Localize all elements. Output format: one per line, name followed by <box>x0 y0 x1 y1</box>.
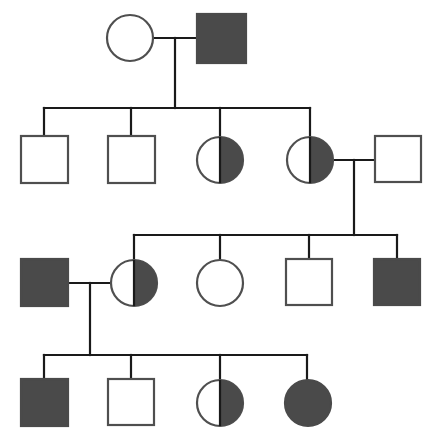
square-symbol-III-4[interactable] <box>286 259 332 305</box>
individual-II-1[interactable] <box>21 136 68 183</box>
square-symbol-II-1[interactable] <box>21 136 68 183</box>
individual-II-2[interactable] <box>108 136 155 183</box>
square-symbol-II-5[interactable] <box>375 136 421 182</box>
circle-symbol-IV-4[interactable] <box>285 380 331 426</box>
individual-II-5[interactable] <box>375 136 421 182</box>
pedigree-chart <box>0 0 439 447</box>
individual-IV-1[interactable] <box>21 379 68 426</box>
square-symbol-II-2[interactable] <box>108 136 155 183</box>
individual-III-5[interactable] <box>374 259 420 305</box>
individual-II-3[interactable] <box>197 137 243 183</box>
square-symbol-III-1[interactable] <box>21 259 68 306</box>
square-symbol-III-5[interactable] <box>374 259 420 305</box>
square-symbol-IV-1[interactable] <box>21 379 68 426</box>
circle-symbol-III-3[interactable] <box>197 260 243 306</box>
individual-I-2[interactable] <box>197 14 246 63</box>
individual-I-1[interactable] <box>107 15 153 61</box>
circle-symbol-I-1[interactable] <box>107 15 153 61</box>
individual-III-3[interactable] <box>197 260 243 306</box>
individual-IV-2[interactable] <box>108 379 154 425</box>
square-symbol-IV-2[interactable] <box>108 379 154 425</box>
square-symbol-I-2[interactable] <box>197 14 246 63</box>
individual-III-4[interactable] <box>286 259 332 305</box>
individual-III-2[interactable] <box>111 260 157 306</box>
individual-III-1[interactable] <box>21 259 68 306</box>
individual-IV-4[interactable] <box>285 380 331 426</box>
individual-II-4[interactable] <box>287 137 333 183</box>
individual-IV-3[interactable] <box>197 380 243 426</box>
pedigree-canvas <box>0 0 439 447</box>
